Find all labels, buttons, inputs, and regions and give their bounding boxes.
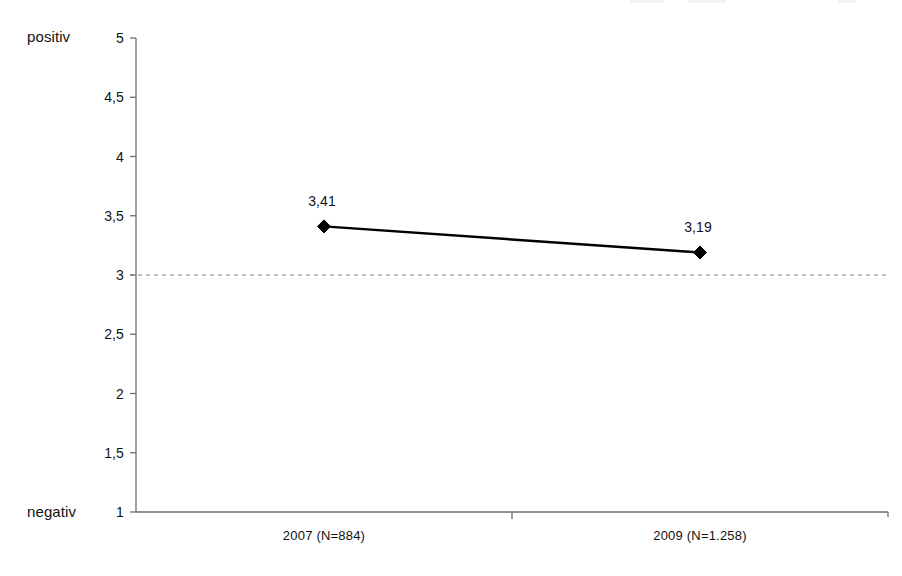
series-line-0 [324,226,700,252]
data-series-group [318,220,707,259]
data-point-marker-0[interactable] [318,220,331,233]
axes-group [136,38,888,517]
data-point-marker-1[interactable] [694,246,707,259]
tick-marks-group [130,38,512,519]
chart-container: positiv negativ 54,543,532,521,51 2007 (… [0,0,902,576]
plot-svg [0,0,902,576]
